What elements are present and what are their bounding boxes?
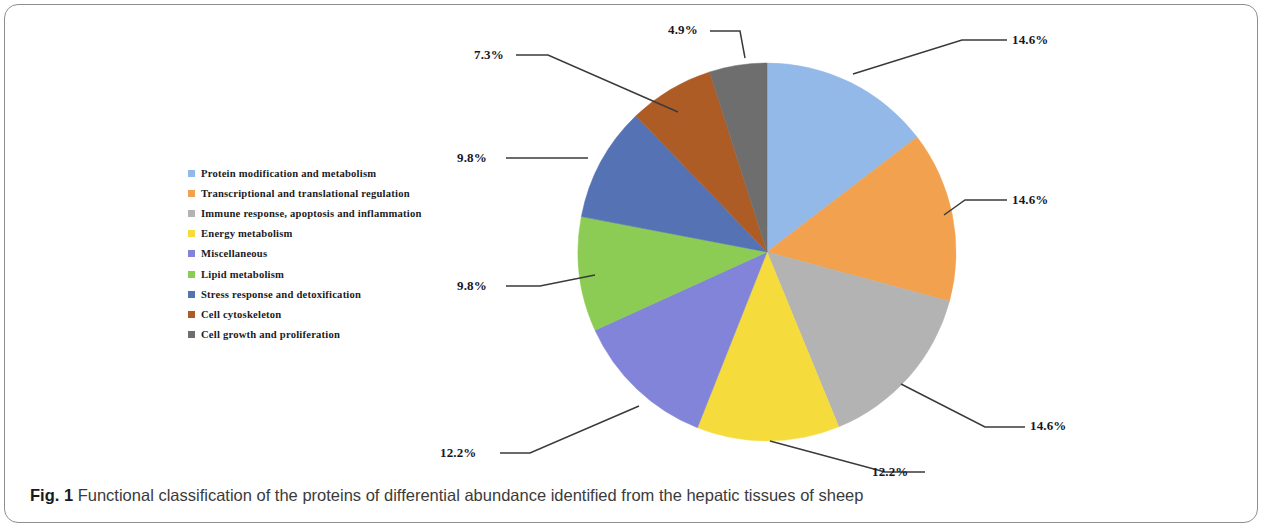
legend-item-label: Transcriptional and translational regula…	[201, 188, 410, 199]
pie-value-label-immune-response: 14.6%	[1030, 418, 1066, 434]
legend-swatch-icon	[188, 190, 195, 197]
legend-item-label: Stress response and detoxification	[201, 289, 361, 300]
legend-item-miscellaneous[interactable]: Miscellaneous	[188, 244, 448, 264]
legend-item-label: Cell growth and proliferation	[201, 329, 340, 340]
legend-item-label: Lipid metabolism	[201, 269, 284, 280]
chart-legend: Protein modification and metabolism Tran…	[188, 163, 448, 345]
legend-item-stress-response[interactable]: Stress response and detoxification	[188, 284, 448, 304]
leader-line-9	[710, 31, 745, 58]
figure-caption: Fig. 1 Functional classification of the …	[30, 486, 1230, 505]
legend-swatch-icon	[188, 170, 195, 177]
legend-item-immune-response[interactable]: Immune response, apoptosis and inflammat…	[188, 203, 448, 223]
legend-item-label: Protein modification and metabolism	[201, 168, 376, 179]
legend-swatch-icon	[188, 311, 195, 318]
figure-panel: Protein modification and metabolism Tran…	[0, 0, 1263, 527]
legend-swatch-icon	[188, 230, 195, 237]
legend-item-cell-growth[interactable]: Cell growth and proliferation	[188, 325, 448, 345]
pie-value-label-cell-growth: 4.9%	[668, 22, 698, 38]
legend-item-protein-modification[interactable]: Protein modification and metabolism	[188, 163, 448, 183]
pie-chart	[577, 62, 957, 442]
legend-item-label: Miscellaneous	[201, 248, 267, 259]
pie-slice-group	[578, 63, 956, 441]
figure-caption-text: Functional classification of the protein…	[73, 486, 863, 504]
pie-value-label-protein-modification: 14.6%	[1012, 32, 1048, 48]
pie-value-label-miscellaneous: 12.2%	[440, 445, 476, 461]
legend-item-transcriptional-regulation[interactable]: Transcriptional and translational regula…	[188, 183, 448, 203]
legend-item-energy-metabolism[interactable]: Energy metabolism	[188, 224, 448, 244]
legend-item-label: Energy metabolism	[201, 228, 293, 239]
legend-item-cell-cytoskeleton[interactable]: Cell cytoskeleton	[188, 304, 448, 324]
pie-value-label-energy-metabolism: 12.2%	[872, 464, 908, 480]
legend-swatch-icon	[188, 271, 195, 278]
legend-swatch-icon	[188, 250, 195, 257]
figure-number: Fig. 1	[30, 486, 73, 504]
legend-swatch-icon	[188, 331, 195, 338]
legend-item-lipid-metabolism[interactable]: Lipid metabolism	[188, 264, 448, 284]
pie-value-label-cell-cytoskeleton: 7.3%	[474, 47, 504, 63]
legend-item-label: Cell cytoskeleton	[201, 309, 281, 320]
figure-plot-area: Protein modification and metabolism Tran…	[0, 0, 1263, 480]
legend-item-label: Immune response, apoptosis and inflammat…	[201, 208, 422, 219]
pie-chart-svg	[577, 62, 957, 442]
pie-value-label-lipid-metabolism: 9.8%	[457, 278, 487, 294]
legend-swatch-icon	[188, 210, 195, 217]
pie-value-label-transcriptional-regulation: 14.6%	[1012, 192, 1048, 208]
legend-swatch-icon	[188, 291, 195, 298]
pie-value-label-stress-response: 9.8%	[457, 150, 487, 166]
